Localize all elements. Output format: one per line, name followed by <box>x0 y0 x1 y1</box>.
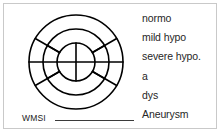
wmsi-score-row: WMSI <box>22 113 134 129</box>
wmsi-value-rule[interactable] <box>55 120 134 121</box>
wmsi-label: WMSI <box>22 113 46 123</box>
spoke-upper-right-middle <box>92 46 104 53</box>
grading-legend: normo mild hypo severe hypo. a dys Aneur… <box>142 9 218 124</box>
legend-item-a[interactable]: a <box>142 67 218 86</box>
spoke-lower-right-middle <box>92 72 104 79</box>
bullseye-diagram[interactable] <box>22 8 130 116</box>
figure-canvas: WMSI normo mild hypo severe hypo. a dys … <box>0 0 221 136</box>
legend-item-normo[interactable]: normo <box>142 9 218 28</box>
bullseye-svg <box>22 8 130 116</box>
legend-item-aneurysm[interactable]: Aneurysm <box>142 105 218 124</box>
spoke-upper-left-middle <box>47 46 59 53</box>
legend-item-mild-hypo[interactable]: mild hypo <box>142 28 218 47</box>
legend-item-dys[interactable]: dys <box>142 86 218 105</box>
legend-item-severe-hypo[interactable]: severe hypo. <box>142 47 218 66</box>
spoke-lower-left-middle <box>47 72 59 79</box>
